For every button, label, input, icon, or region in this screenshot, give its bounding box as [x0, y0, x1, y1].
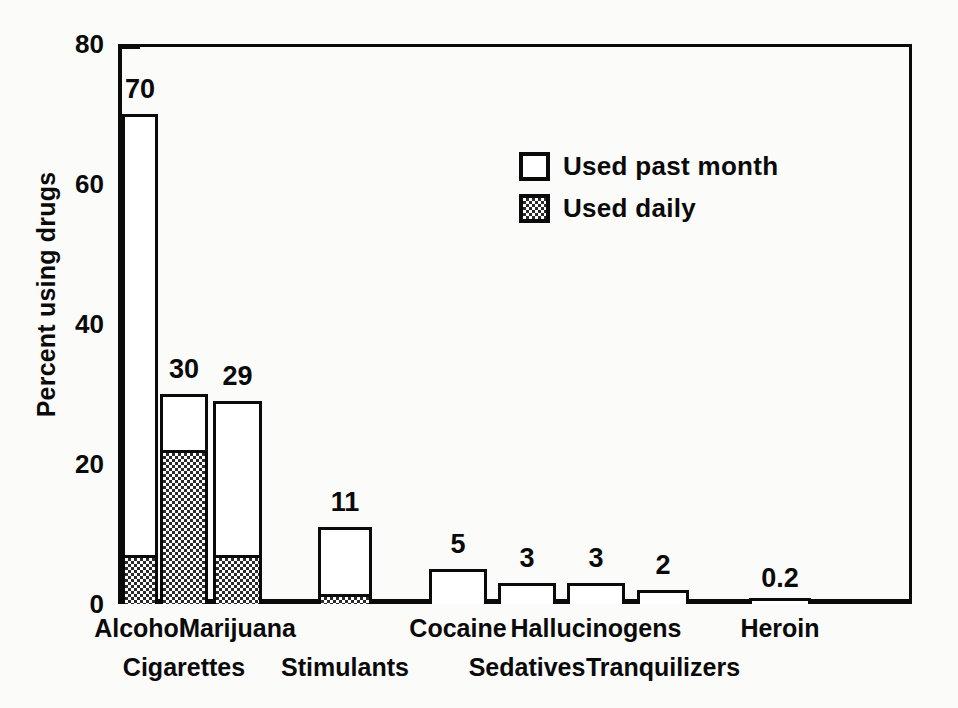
legend-item-used-past-month: Used past month	[519, 148, 778, 185]
bar-value-label: 70	[82, 76, 198, 103]
legend-label: Used past month	[563, 151, 778, 182]
y-axis-tick-label: 40	[38, 311, 104, 337]
bar-stimulants	[318, 527, 372, 604]
legend-label: Used daily	[563, 193, 696, 224]
y-axis-tick-label: 20	[38, 451, 104, 477]
y-axis-tick-label: 60	[38, 171, 104, 197]
bar-value-label: 11	[278, 489, 412, 516]
bar-cocaine	[429, 569, 487, 604]
bar-daily-marijuana	[213, 555, 262, 604]
bar-hallucinogens	[567, 583, 625, 604]
bars-layer	[118, 44, 912, 604]
legend-swatch-open-square-icon	[519, 152, 550, 181]
bar-heroin	[749, 598, 811, 604]
bar-sedatives	[498, 583, 556, 604]
x-axis-label-heroin: Heroin	[670, 616, 890, 641]
legend: Used past month Used daily	[519, 148, 778, 232]
x-axis-label-marijuana: Marijuana	[128, 616, 348, 641]
bar-value-label: 29	[173, 363, 302, 390]
x-axis-label-tranquilizers: Tranquilizers	[553, 655, 773, 680]
bar-chart: Percent using drugs 806040200 7030291153…	[0, 0, 958, 708]
bar-value-label: 0.2	[709, 565, 851, 592]
legend-item-used-daily: Used daily	[519, 190, 778, 227]
bar-marijuana	[213, 401, 262, 604]
bar-daily-alcohol	[122, 555, 158, 604]
bar-daily-cigarettes	[160, 450, 208, 604]
bar-daily-stimulants	[318, 594, 372, 605]
y-axis-tick-label: 80	[38, 31, 104, 57]
legend-swatch-checkered-square-icon	[519, 194, 550, 223]
bar-tranquilizers	[637, 590, 689, 604]
bar-cigarettes	[160, 394, 208, 604]
y-axis-title: Percent using drugs	[32, 85, 61, 505]
